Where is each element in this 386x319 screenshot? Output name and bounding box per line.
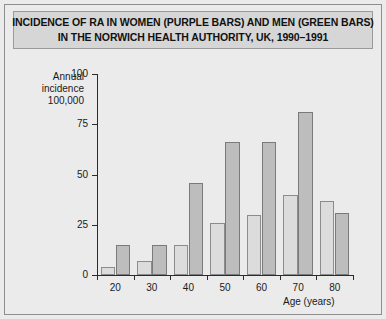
x-tick-mark (316, 276, 317, 280)
x-tick-label: 80 (320, 282, 350, 293)
bar-women-age-30 (152, 245, 167, 275)
bar-men-age-70 (283, 195, 298, 275)
y-axis-title-line-2: incidence (8, 83, 84, 95)
x-tick-label: 70 (283, 282, 313, 293)
x-tick-mark (353, 276, 354, 280)
x-tick-label: 60 (247, 282, 277, 293)
y-tick-label: 75 (48, 118, 88, 129)
bar-women-age-80 (335, 213, 350, 275)
bar-women-age-20 (116, 245, 131, 275)
chart-title-line-2: IN THE NORWICH HEALTH AUTHORITY, UK, 199… (58, 30, 329, 45)
chart-figure: INCIDENCE OF RA IN WOMEN (PURPLE BARS) A… (0, 0, 386, 319)
y-axis-title-line-3: 100,000 (8, 95, 84, 107)
y-tick-label: 0 (48, 269, 88, 280)
y-tick-label: 25 (48, 219, 88, 230)
bar-women-age-40 (189, 183, 204, 275)
bar-women-age-50 (225, 142, 240, 275)
bar-men-age-30 (137, 261, 152, 275)
x-tick-label: 50 (210, 282, 240, 293)
bar-men-age-60 (247, 215, 262, 275)
bar-men-age-50 (210, 223, 225, 275)
plot-area (97, 74, 353, 275)
bar-men-age-40 (174, 245, 189, 275)
x-tick-label: 20 (100, 282, 130, 293)
chart-title-line-1: INCIDENCE OF RA IN WOMEN (PURPLE BARS) A… (12, 15, 373, 30)
y-tick-label: 100 (48, 68, 88, 79)
x-tick-mark (207, 276, 208, 280)
x-axis-title: Age (years) (283, 296, 335, 307)
x-tick-label: 40 (173, 282, 203, 293)
bar-women-age-60 (262, 142, 277, 275)
x-tick-mark (280, 276, 281, 280)
chart-title-banner: INCIDENCE OF RA IN WOMEN (PURPLE BARS) A… (13, 11, 373, 49)
bar-men-age-80 (320, 201, 335, 275)
x-tick-label: 30 (137, 282, 167, 293)
x-tick-mark (170, 276, 171, 280)
bar-women-age-70 (298, 112, 313, 275)
x-tick-mark (243, 276, 244, 280)
x-tick-mark (97, 276, 98, 280)
y-tick-label: 50 (48, 169, 88, 180)
bar-men-age-20 (101, 267, 116, 275)
x-tick-mark (134, 276, 135, 280)
